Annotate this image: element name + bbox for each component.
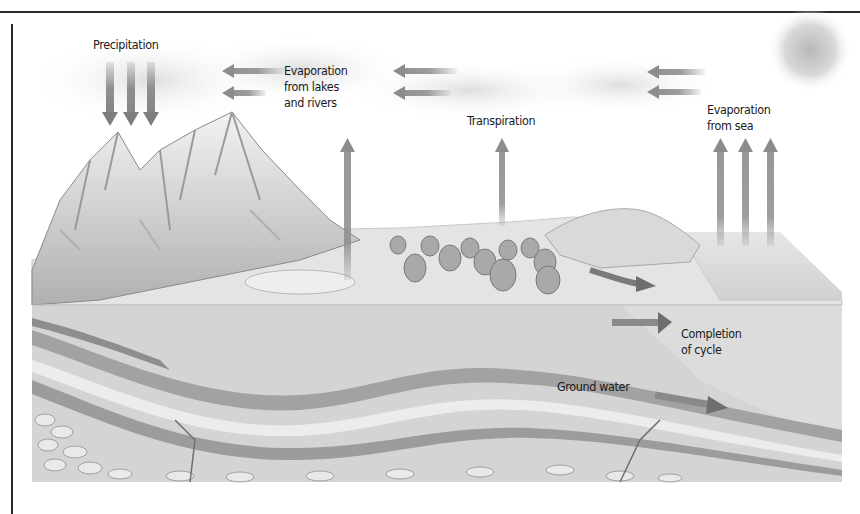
label-precipitation: Precipitation	[93, 37, 158, 53]
water-cycle-illustration	[0, 0, 860, 514]
label-ground-water: Ground water	[557, 379, 629, 395]
label-completion: Completion of cycle	[681, 326, 742, 358]
lake	[245, 270, 355, 294]
sun-icon	[768, 8, 852, 92]
evaporation-sea-up-arrows	[713, 138, 778, 246]
transpiration-up-arrow	[495, 138, 509, 226]
label-evaporation-lakes: Evaporation from lakes and rivers	[284, 63, 348, 111]
label-evaporation-sea: Evaporation from sea	[707, 102, 771, 134]
label-transpiration: Transpiration	[467, 113, 535, 129]
precipitation-arrows	[102, 62, 159, 126]
